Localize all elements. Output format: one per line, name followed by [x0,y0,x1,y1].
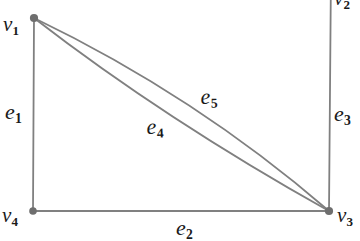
vertex-label-v1: v1 [3,14,19,35]
vertex-v3-dot [325,207,333,215]
edge-label-e2: e2 [176,217,193,239]
edge-e1-line [33,18,34,211]
edge-label-e1: e1 [5,101,22,123]
vertex-v4-dot [29,207,37,215]
edge-label-e5: e5 [200,85,217,108]
vertex-label-v3: v3 [337,205,353,226]
vertex-v1-dot [30,14,38,22]
vertex-label-v2: v2 [334,0,350,9]
edge-e4-curve [34,18,329,211]
edge-label-e4: e4 [146,115,163,138]
vertex-label-v4: v4 [2,205,18,226]
edge-label-e3: e3 [334,103,351,125]
edge-e5-curve [34,18,329,211]
graph-diagram-canvas: v1 v2 v3 v4 e1 e2 e3 e4 e5 [0,0,360,241]
edge-e3-line [329,0,331,211]
graph-edges-svg [0,0,360,241]
